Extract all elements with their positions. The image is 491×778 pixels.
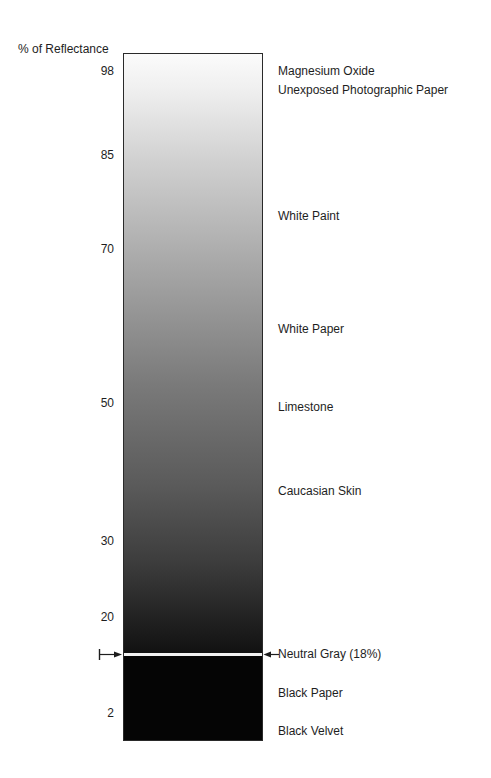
gray-scale-bar xyxy=(123,53,263,741)
axis-title: % of Reflectance xyxy=(18,42,109,56)
label-white-paint: White Paint xyxy=(278,209,339,223)
tick-20: 20 xyxy=(101,610,114,624)
label-limestone: Limestone xyxy=(278,400,333,414)
label-white-paper: White Paper xyxy=(278,322,344,336)
label-caucasian-skin: Caucasian Skin xyxy=(278,484,361,498)
tick-85: 85 xyxy=(101,148,114,162)
right-arrow-marker-icon xyxy=(263,648,279,661)
gradient-region xyxy=(124,54,262,654)
label-black-paper: Black Paper xyxy=(278,686,343,700)
label-black-velvet: Black Velvet xyxy=(278,724,343,738)
tick-2: 2 xyxy=(107,706,114,720)
label-neutral-gray: Neutral Gray (18%) xyxy=(278,647,381,661)
tick-50: 50 xyxy=(101,396,114,410)
label-magnesium-oxide: Magnesium Oxide xyxy=(278,64,375,78)
tick-70: 70 xyxy=(101,242,114,256)
tick-98: 98 xyxy=(101,64,114,78)
label-unexposed-paper: Unexposed Photographic Paper xyxy=(278,83,448,97)
left-arrow-marker-icon xyxy=(98,648,123,661)
tick-30: 30 xyxy=(101,534,114,548)
black-region xyxy=(124,656,262,740)
